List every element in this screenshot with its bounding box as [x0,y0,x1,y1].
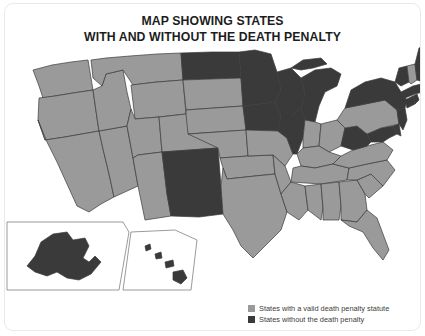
state-MS[interactable]: Mississippi [305,184,323,220]
state-MN[interactable]: Minnesota [239,50,281,106]
us-choropleth-map: Washington Oregon California Nevada Idah… [5,34,421,292]
title-line-1: MAP SHOWING STATES [20,13,406,29]
state-IN[interactable]: Indiana [303,120,321,148]
state-HI-oahu[interactable]: Hawaii [155,252,162,259]
map-svg: Washington Oregon California Nevada Idah… [5,34,421,292]
legend-item-without-penalty[interactable]: States without the death penalty [248,314,389,324]
legend: States with a valid death penalty statut… [248,303,389,324]
state-TN[interactable]: Tennessee [291,164,349,184]
state-HI-kauai[interactable]: Hawaii [145,244,151,251]
state-ND[interactable]: North Dakota [181,52,241,80]
state-SD[interactable]: South Dakota [183,78,243,110]
legend-label-without-penalty: States without the death penalty [259,315,364,324]
state-AK[interactable]: Alaska [27,232,101,280]
hawaii-islands[interactable]: Hawaii Hawaii Hawaii Hawaii [145,244,187,284]
state-VT[interactable]: Vermont [395,66,409,86]
legend-swatch-with-penalty [248,305,255,312]
legend-swatch-without-penalty [248,316,255,323]
state-IA[interactable]: Iowa [243,102,281,131]
hawaii-inset-box [123,230,197,290]
state-NE[interactable]: Nebraska [186,106,246,134]
state-AL[interactable]: Alabama [321,182,341,220]
legend-item-with-penalty[interactable]: States with a valid death penalty statut… [248,303,389,313]
legend-label-with-penalty: States with a valid death penalty statut… [259,304,389,313]
screenshot-root: MAP SHOWING STATES WITH AND WITHOUT THE … [0,0,425,336]
state-HI-bigisland[interactable]: Hawaii [173,270,187,284]
map-card: MAP SHOWING STATES WITH AND WITHOUT THE … [4,3,421,331]
state-WY[interactable]: Wyoming [131,80,186,119]
state-HI-maui[interactable]: Hawaii [165,260,174,268]
state-NM[interactable]: New Mexico [162,148,223,217]
state-OH[interactable]: Ohio [319,120,345,152]
